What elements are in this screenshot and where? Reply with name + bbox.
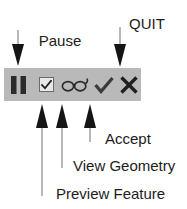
- preview-feature-checkbox[interactable]: [33, 68, 59, 101]
- view-geometry-button[interactable]: [59, 68, 91, 101]
- pause-icon: [10, 76, 27, 94]
- checkmark-icon: [94, 76, 114, 94]
- x-cross-icon: [120, 76, 138, 94]
- glasses-icon: [61, 78, 89, 92]
- arrow-up-to-preview-feature-checkbox: [34, 104, 50, 196]
- annotated-toolbar-figure: Pause Creation QUIT: [0, 0, 187, 209]
- checkbox-checked-icon: [39, 77, 54, 92]
- callout-label-accept: Accept: [105, 131, 151, 147]
- arrow-up-to-view-geometry-button: [54, 104, 70, 168]
- arrow-down-to-quit-button: [112, 27, 128, 67]
- arrow-up-to-accept-button: [82, 104, 98, 142]
- arrow-down-to-pause-button: [10, 30, 26, 66]
- callout-label-view-geometry: View Geometry: [73, 158, 175, 174]
- toolbar[interactable]: [4, 68, 141, 101]
- quit-button[interactable]: [117, 68, 141, 101]
- pause-button[interactable]: [4, 68, 33, 101]
- callout-label-preview-feature: Preview Feature: [56, 186, 165, 202]
- accept-button[interactable]: [91, 68, 117, 101]
- callout-label-quit: QUIT: [129, 16, 165, 32]
